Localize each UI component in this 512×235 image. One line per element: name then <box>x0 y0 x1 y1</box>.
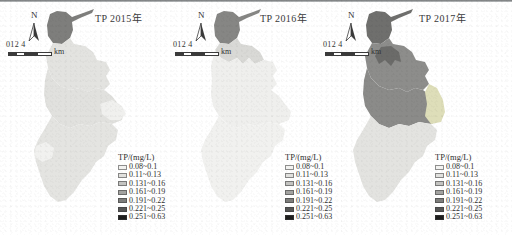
panel-title-2015: TP 2015年 <box>95 10 142 25</box>
legend-swatch <box>118 190 127 195</box>
scale-bar: 012 4 km <box>6 42 68 60</box>
legend-swatch <box>118 181 127 186</box>
legend-swatch <box>118 198 127 203</box>
map-panel-2016: TP 2016年 N 012 4 km TP/(mg/L) 0.08~0.1 0… <box>171 0 342 235</box>
scale-tick-4: 4 <box>21 41 25 49</box>
map-panel-2017: TP 2017年 N 012 4 km TP/(mg/L) 0.08~0.1 0… <box>341 0 512 235</box>
legend-swatch <box>285 207 294 212</box>
legend-row: 0.251~0.63 <box>285 213 343 221</box>
legend-swatch <box>435 181 444 186</box>
legend-swatch <box>285 215 294 220</box>
north-arrow-glyph <box>193 22 209 42</box>
legend-label: 0.251~0.63 <box>446 213 482 221</box>
scale-bar-graphic <box>175 52 219 56</box>
legend-swatch <box>118 207 127 212</box>
scale-tick-4: 4 <box>188 41 192 49</box>
legend-row: 0.251~0.63 <box>435 213 493 221</box>
scale-tick-2: 2 <box>182 41 186 49</box>
scale-tick-2: 2 <box>332 41 336 49</box>
panel-title-2017: TP 2017年 <box>419 10 466 25</box>
legend-swatch <box>118 173 127 178</box>
region-southern-body <box>201 116 285 202</box>
scale-bar: 012 4 km <box>173 42 235 60</box>
scale-bar-unit: km <box>221 48 231 56</box>
legend-title: TP/(mg/L) <box>435 152 493 162</box>
map-legend-2016: TP/(mg/L) 0.08~0.1 0.11~0.13 0.131~0.16 … <box>285 152 343 222</box>
north-arrow-label: N <box>31 11 38 20</box>
map-panel-2015: TP 2015年 N 012 4 km TP/(mg/L) 0.08~0.1 0… <box>0 0 171 235</box>
scale-bar-ticks: 012 4 <box>6 41 26 49</box>
north-arrow-glyph <box>343 22 359 42</box>
north-arrow-label: N <box>198 11 205 20</box>
legend-label: 0.251~0.63 <box>296 213 332 221</box>
legend-swatch <box>285 173 294 178</box>
legend-swatch <box>118 215 127 220</box>
legend-swatch <box>435 198 444 203</box>
north-arrow-icon: N <box>22 12 50 44</box>
map-legend-2017: TP/(mg/L) 0.08~0.1 0.11~0.13 0.131~0.16 … <box>435 152 493 222</box>
scale-bar-ticks: 012 4 <box>173 41 193 49</box>
legend-swatch <box>435 173 444 178</box>
north-arrow-icon: N <box>339 12 367 44</box>
north-arrow-glyph <box>26 22 42 42</box>
legend-row: 0.251~0.63 <box>118 213 176 221</box>
legend-swatch <box>285 165 294 170</box>
legend-swatch <box>435 215 444 220</box>
legend-swatch <box>435 165 444 170</box>
scale-tick-2: 2 <box>15 41 19 49</box>
map-legend-2015: TP/(mg/L) 0.08~0.1 0.11~0.13 0.131~0.16 … <box>118 152 176 222</box>
scale-bar: 012 4 km <box>323 42 385 60</box>
region-central-body <box>211 50 291 128</box>
legend-swatch <box>285 198 294 203</box>
scale-bar-unit: km <box>54 48 64 56</box>
panel-title-2016: TP 2016年 <box>260 10 307 25</box>
legend-swatch <box>435 207 444 212</box>
legend-swatch <box>435 190 444 195</box>
scale-bar-unit: km <box>371 48 381 56</box>
region-east-light-wedge <box>425 84 445 124</box>
region-southern-body <box>353 116 437 202</box>
scale-bar-graphic <box>8 52 52 56</box>
legend-title: TP/(mg/L) <box>285 152 343 162</box>
legend-label: 0.251~0.63 <box>129 213 165 221</box>
legend-swatch <box>118 165 127 170</box>
scale-bar-ticks: 012 4 <box>323 41 343 49</box>
legend-swatch <box>285 181 294 186</box>
north-arrow-icon: N <box>189 12 217 44</box>
legend-title: TP/(mg/L) <box>118 152 176 162</box>
scale-tick-4: 4 <box>338 41 342 49</box>
scale-bar-graphic <box>325 52 369 56</box>
north-arrow-label: N <box>348 11 355 20</box>
legend-swatch <box>285 190 294 195</box>
